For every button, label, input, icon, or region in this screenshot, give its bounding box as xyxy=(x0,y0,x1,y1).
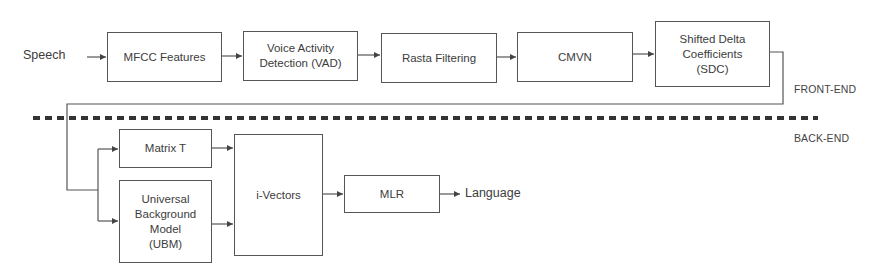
back-end-section-label: BACK-END xyxy=(794,132,849,144)
speech-input-label: Speech xyxy=(23,48,65,62)
rasta-filtering-block: Rasta Filtering xyxy=(381,33,497,83)
language-output-label: Language xyxy=(465,186,521,200)
mlr-block: MLR xyxy=(344,175,440,213)
cmvn-block: CMVN xyxy=(517,32,633,82)
language-id-pipeline-diagram: Speech MFCC Features Voice Activity Dete… xyxy=(0,0,882,279)
mfcc-features-block: MFCC Features xyxy=(107,32,222,82)
front-end-section-label: FRONT-END xyxy=(794,83,856,95)
vad-block: Voice Activity Detection (VAD) xyxy=(243,31,358,81)
matrix-t-block: Matrix T xyxy=(119,129,212,168)
ubm-block: Universal Background Model (UBM) xyxy=(119,180,212,263)
ivectors-block: i-Vectors xyxy=(234,134,323,256)
sdc-block: Shifted Delta Coefficients (SDC) xyxy=(655,21,770,87)
